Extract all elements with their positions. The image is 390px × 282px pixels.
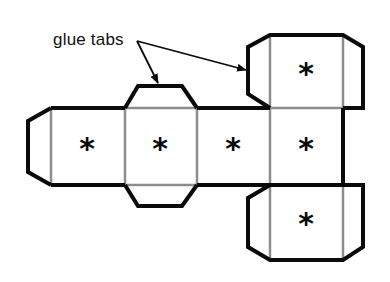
face-4-star: * bbox=[298, 131, 314, 166]
arrow-to-side-tab bbox=[137, 41, 246, 70]
face-top-star: * bbox=[298, 56, 314, 91]
face-3-star: * bbox=[225, 131, 241, 166]
face-bottom-star: * bbox=[298, 206, 314, 241]
face-2-star: * bbox=[152, 131, 168, 166]
face-1-star: * bbox=[79, 131, 95, 166]
glue-tabs-label: glue tabs bbox=[53, 30, 124, 50]
annotation-arrows bbox=[137, 41, 246, 83]
arrow-to-top-tab bbox=[137, 41, 158, 83]
